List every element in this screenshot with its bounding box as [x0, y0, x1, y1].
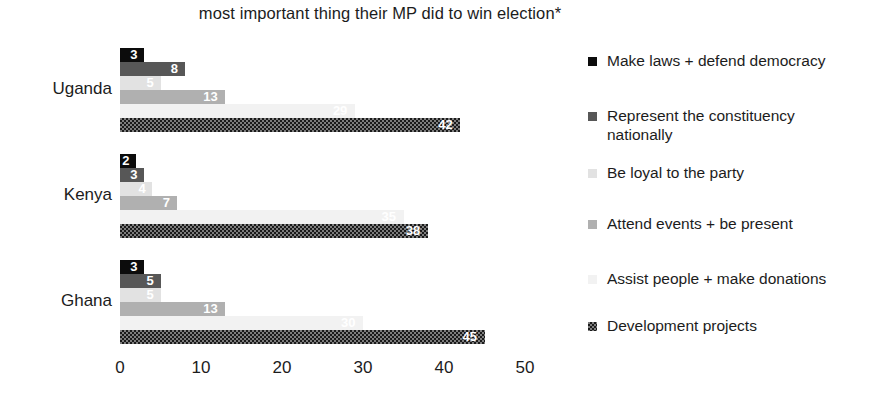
- x-tick-label-50: 50: [516, 358, 535, 378]
- bar-value-label: 5: [147, 76, 154, 90]
- bar-row: 29: [120, 104, 525, 118]
- legend-label: Attend events + be present: [607, 215, 793, 234]
- legend-item-0[interactable]: Make laws + defend democracy: [588, 52, 825, 71]
- legend-item-4[interactable]: Assist people + make donations: [588, 270, 826, 289]
- bar-row: 8: [120, 62, 525, 76]
- legend-item-5[interactable]: Development projects: [588, 317, 757, 336]
- bar-row: 5: [120, 274, 525, 288]
- legend-swatch-icon: [588, 112, 597, 121]
- bar-row: 35: [120, 210, 525, 224]
- legend-item-2[interactable]: Be loyal to the party: [588, 164, 744, 183]
- bar-kenya-series-2[interactable]: [120, 182, 152, 196]
- bar-ghana-series-2[interactable]: [120, 288, 161, 302]
- bar-row: 3: [120, 260, 525, 274]
- bar-value-label: 4: [138, 182, 145, 196]
- bar-value-label: 13: [203, 90, 217, 104]
- bar-ghana-series-1[interactable]: [120, 274, 161, 288]
- bar-value-label: 35: [382, 210, 396, 224]
- bar-row: 30: [120, 316, 525, 330]
- legend-item-1[interactable]: Represent the constituency nationally: [588, 107, 852, 144]
- bar-value-label: 2: [122, 154, 129, 168]
- x-tick-label-20: 20: [273, 358, 292, 378]
- x-tick-label-30: 30: [354, 358, 373, 378]
- chart-container: most important thing their MP did to win…: [0, 0, 875, 393]
- bar-row: 45: [120, 330, 525, 344]
- category-label-ghana: Ghana: [2, 291, 112, 311]
- legend-swatch-icon: [588, 275, 597, 284]
- bar-value-label: 29: [333, 104, 347, 118]
- bar-group-ghana: 355133045: [120, 260, 525, 344]
- legend-swatch-icon: [588, 322, 597, 331]
- legend-label: Be loyal to the party: [607, 164, 744, 183]
- legend-swatch-icon: [588, 220, 597, 229]
- bar-row: 5: [120, 288, 525, 302]
- bar-row: 3: [120, 168, 525, 182]
- legend-label: Development projects: [607, 317, 757, 336]
- bar-value-label: 3: [130, 168, 137, 182]
- bar-value-label: 7: [163, 196, 170, 210]
- bar-row: 3: [120, 48, 525, 62]
- category-label-uganda: Uganda: [2, 79, 112, 99]
- bar-row: 5: [120, 76, 525, 90]
- category-label-kenya: Kenya: [2, 185, 112, 205]
- bar-value-label: 38: [406, 224, 420, 238]
- bar-value-label: 3: [130, 48, 137, 62]
- bar-ghana-series-5[interactable]: [120, 330, 485, 344]
- bar-ghana-series-4[interactable]: [120, 316, 363, 330]
- bar-uganda-series-4[interactable]: [120, 104, 355, 118]
- bar-value-label: 5: [147, 274, 154, 288]
- x-axis: 01020304050: [120, 358, 540, 388]
- bar-uganda-series-2[interactable]: [120, 76, 161, 90]
- bar-value-label: 45: [463, 330, 477, 344]
- bar-value-label: 42: [438, 118, 452, 132]
- bar-kenya-series-5[interactable]: [120, 224, 428, 238]
- bar-value-label: 8: [171, 62, 178, 76]
- chart-title: most important thing their MP did to win…: [0, 4, 760, 23]
- bar-uganda-series-5[interactable]: [120, 118, 460, 132]
- legend-label: Represent the constituency nationally: [607, 107, 852, 144]
- bar-row: 4: [120, 182, 525, 196]
- legend-label: Make laws + defend democracy: [607, 52, 825, 71]
- bar-row: 2: [120, 154, 525, 168]
- bar-value-label: 30: [341, 316, 355, 330]
- category-axis-labels: UgandaKenyaGhana: [0, 48, 112, 353]
- bar-row: 42: [120, 118, 525, 132]
- bar-value-label: 13: [203, 302, 217, 316]
- legend-swatch-icon: [588, 57, 597, 66]
- legend-label: Assist people + make donations: [607, 270, 826, 289]
- plot-area: 38513294223473538355133045: [120, 48, 525, 353]
- legend-swatch-icon: [588, 169, 597, 178]
- legend-item-3[interactable]: Attend events + be present: [588, 215, 793, 234]
- x-tick-label-40: 40: [435, 358, 454, 378]
- bar-row: 7: [120, 196, 525, 210]
- bar-value-label: 3: [130, 260, 137, 274]
- bar-row: 13: [120, 302, 525, 316]
- bar-value-label: 5: [147, 288, 154, 302]
- x-tick-label-10: 10: [192, 358, 211, 378]
- bar-kenya-series-4[interactable]: [120, 210, 404, 224]
- bar-row: 13: [120, 90, 525, 104]
- bar-row: 38: [120, 224, 525, 238]
- x-tick-label-0: 0: [115, 358, 124, 378]
- bar-group-kenya: 23473538: [120, 154, 525, 238]
- bar-group-uganda: 385132942: [120, 48, 525, 132]
